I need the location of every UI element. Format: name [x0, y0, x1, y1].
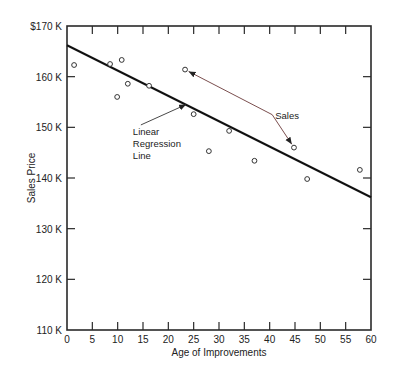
data-point-marker [305, 177, 310, 182]
x-axis-title: Age of Improvements [171, 347, 266, 358]
data-point-marker [206, 149, 211, 154]
data-point-marker [191, 112, 196, 117]
x-tick-label: 25 [188, 334, 200, 345]
y-tick-label: 130 K [36, 224, 62, 235]
y-tick-label: 120 K [36, 274, 62, 285]
x-tick-label: 55 [340, 334, 352, 345]
x-tick-label: 15 [137, 334, 149, 345]
y-axis-title: Sales Price [26, 152, 37, 203]
arrow-sales [189, 71, 273, 114]
axes [67, 26, 371, 330]
x-tick-label: 40 [264, 334, 276, 345]
x-tick-label: 60 [365, 334, 377, 345]
data-point-marker [357, 167, 362, 172]
data-point-marker [147, 83, 152, 88]
x-tick-label: 50 [315, 334, 327, 345]
y-tick-label: 160 K [36, 72, 62, 83]
plot-frame [67, 26, 371, 330]
annotation-regression-label: Line [133, 150, 151, 161]
data-point-marker [227, 128, 232, 133]
regression-line-path [67, 45, 371, 197]
annotation-regression-label: Linear [133, 126, 159, 137]
x-tick-label: 10 [112, 334, 124, 345]
x-tick-label: 35 [239, 334, 251, 345]
annotation-sales: Sales [275, 110, 299, 121]
data-point-marker [115, 95, 120, 100]
data-point-marker [72, 63, 77, 68]
arrow-regression [141, 105, 186, 125]
annotations: SalesLinearRegressionLine [133, 71, 299, 161]
annotation-regression-label: Regression [133, 138, 181, 149]
x-tick-label: 30 [213, 334, 225, 345]
x-tick-label: 45 [289, 334, 301, 345]
y-tick-label: $170 K [30, 21, 62, 32]
y-tick-label: 110 K [37, 325, 63, 336]
data-point-marker [292, 145, 297, 150]
regression-line [67, 45, 371, 197]
data-point-marker [183, 67, 188, 72]
data-point-marker [108, 62, 113, 67]
scatter-chart: 051015202530354045505560 110 K120 K130 K… [0, 0, 395, 379]
x-tick-label: 0 [64, 334, 70, 345]
y-tick-label: 150 K [36, 122, 62, 133]
data-point-marker [125, 81, 130, 86]
y-axis-ticks: 110 K120 K130 K140 K150 K160 K$170 K [30, 21, 371, 336]
data-point-marker [119, 58, 124, 63]
x-axis-ticks: 051015202530354045505560 [64, 26, 377, 345]
data-point-marker [252, 158, 257, 163]
y-tick-label: 140 K [36, 173, 62, 184]
x-tick-label: 5 [90, 334, 96, 345]
x-tick-label: 20 [163, 334, 175, 345]
